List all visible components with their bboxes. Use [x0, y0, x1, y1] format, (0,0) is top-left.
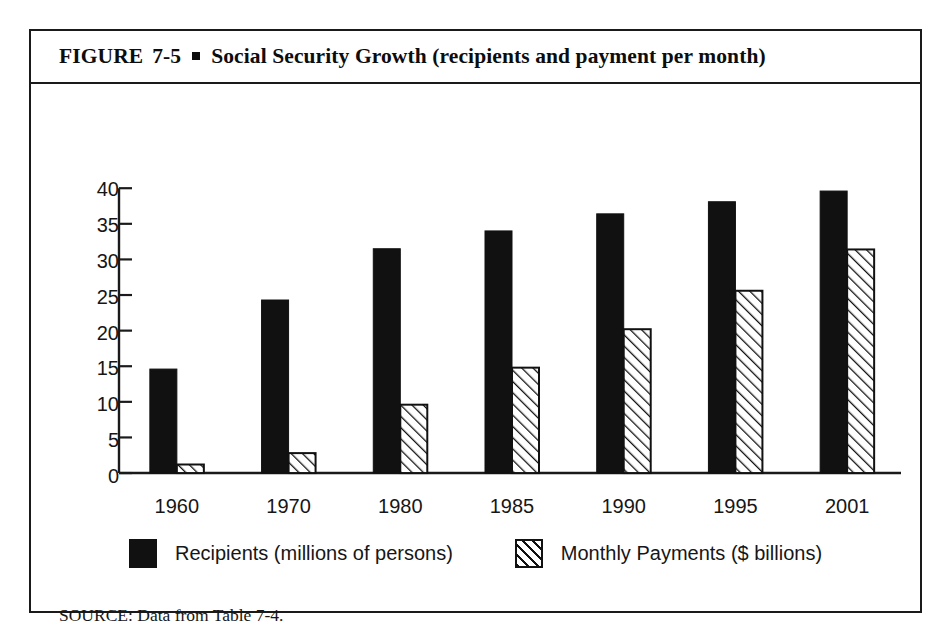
- figure-label: FIGURE: [59, 44, 143, 69]
- x-axis-tick-labels: 1960197019801985199019952001: [31, 84, 920, 611]
- x-tick-label-1960: 1960: [155, 496, 200, 516]
- chart-plot-region: 0510152025303540 19601970198019851990199…: [31, 84, 920, 611]
- legend-label-recipients: Recipients (millions of persons): [175, 542, 453, 565]
- legend-entry-monthly-payments: Monthly Payments ($ billions): [515, 539, 822, 568]
- figure-header: FIGURE 7-5 Social Security Growth (recip…: [31, 31, 920, 84]
- legend-entry-recipients: Recipients (millions of persons): [129, 539, 453, 568]
- figure-number: 7-5: [152, 44, 181, 69]
- x-tick-label-1985: 1985: [490, 496, 535, 516]
- page-title: Social Security Growth (recipients and p…: [211, 44, 766, 69]
- x-tick-label-1980: 1980: [378, 496, 423, 516]
- chart-legend: Recipients (millions of persons) Monthly…: [31, 539, 920, 568]
- x-tick-label-1970: 1970: [266, 496, 311, 516]
- square-bullet-icon: [192, 52, 200, 60]
- legend-swatch-solid-icon: [129, 539, 157, 568]
- source-note: SOURCE: Data from Table 7-4.: [59, 605, 283, 626]
- legend-swatch-hatch-icon: [515, 539, 543, 568]
- x-tick-label-2001: 2001: [825, 496, 870, 516]
- x-tick-label-1990: 1990: [601, 496, 646, 516]
- figure-title: FIGURE 7-5 Social Security Growth (recip…: [31, 44, 766, 69]
- figure-frame: FIGURE 7-5 Social Security Growth (recip…: [29, 29, 922, 613]
- x-tick-label-1995: 1995: [713, 496, 758, 516]
- legend-label-monthly-payments: Monthly Payments ($ billions): [561, 542, 822, 565]
